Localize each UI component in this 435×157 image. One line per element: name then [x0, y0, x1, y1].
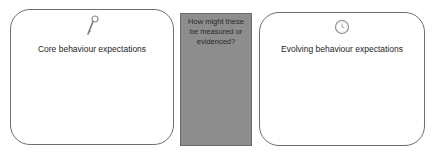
measurement-question-text: How might these be measured or evidenced… — [181, 17, 251, 47]
measurement-question-panel: How might these be measured or evidenced… — [180, 13, 252, 146]
clock-icon — [334, 19, 350, 35]
core-behaviour-label: Core behaviour expectations — [11, 44, 173, 54]
question-line-1: How might these — [181, 17, 251, 27]
question-line-2: be measured or — [181, 27, 251, 37]
key-icon — [85, 15, 99, 37]
evolving-behaviour-label: Evolving behaviour expectations — [260, 44, 424, 54]
question-line-3: evidenced? — [181, 37, 251, 47]
evolving-behaviour-card: Evolving behaviour expectations — [259, 12, 425, 146]
core-behaviour-card: Core behaviour expectations — [10, 9, 174, 145]
